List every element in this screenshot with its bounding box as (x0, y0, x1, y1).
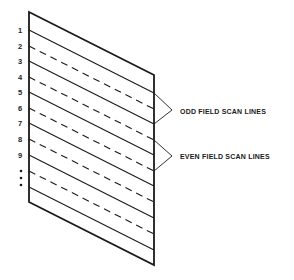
line-number-1: 1 (18, 26, 22, 35)
scan-line-2 (29, 46, 154, 109)
scan-line-8 (29, 139, 154, 202)
scan-line-7 (29, 123, 154, 186)
odd-field-bracket (154, 93, 172, 124)
scan-line-11 (29, 187, 154, 250)
line-number-5: 5 (18, 88, 22, 97)
continuation-dots-icon (20, 170, 23, 187)
line-number-7: 7 (18, 119, 22, 128)
line-number-4: 4 (18, 73, 23, 82)
line-number-6: 6 (18, 104, 22, 113)
odd-field-label: ODD FIELD SCAN LINES (180, 108, 266, 115)
line-number-9: 9 (18, 151, 22, 160)
screen-frame (29, 12, 154, 265)
line-number-8: 8 (18, 135, 22, 144)
scan-line-10 (29, 171, 154, 234)
scan-diagram: 1 2 3 4 5 6 7 8 9 ODD FIELD SCAN LINES E… (0, 0, 294, 280)
line-number-3: 3 (18, 57, 22, 66)
even-field-bracket (154, 140, 172, 171)
line-number-2: 2 (18, 42, 22, 51)
even-field-label: EVEN FIELD SCAN LINES (180, 153, 270, 160)
scan-line-1 (29, 30, 154, 93)
scan-line-3 (29, 61, 154, 124)
scan-line-4 (29, 77, 154, 140)
scan-line-9 (29, 155, 154, 218)
scan-line-6 (29, 108, 154, 171)
scan-line-5 (29, 92, 154, 155)
